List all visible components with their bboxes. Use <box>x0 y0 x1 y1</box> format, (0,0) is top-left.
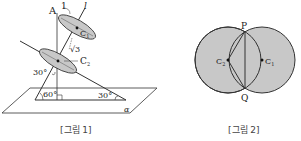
label-sqrt3: √3 <box>70 45 80 54</box>
figure-1: A 1 l C1 √3 C2 30° 60° 30° α [그림 1] <box>2 1 157 135</box>
C2-center-fig2 <box>227 59 230 62</box>
caption-figure-1: [그림 1] <box>60 124 92 135</box>
figure-2: P Q C2 C1 [그림 2] <box>195 21 295 135</box>
label-l: l <box>84 1 87 11</box>
diagram-canvas: A 1 l C1 √3 C2 30° 60° 30° α [그림 1] P Q … <box>0 0 301 141</box>
label-1: 1 <box>61 1 67 11</box>
right-angle-mark <box>57 95 62 100</box>
label-angle-60: 60° <box>43 90 57 99</box>
label-alpha: α <box>124 105 130 114</box>
C2-center-dot <box>57 60 60 63</box>
C1-center-dot <box>76 27 79 30</box>
label-A: A <box>48 5 57 16</box>
label-C2: C2 <box>80 56 90 67</box>
angle-arc-30-left <box>52 72 55 75</box>
label-P: P <box>241 21 247 31</box>
label-angle-30-right: 30° <box>98 91 112 100</box>
caption-figure-2: [그림 2] <box>228 124 260 135</box>
label-Q: Q <box>241 93 248 103</box>
C1-center-fig2 <box>261 59 264 62</box>
angle-arc-30-right <box>115 96 118 100</box>
label-angle-30-left: 30° <box>33 68 47 77</box>
